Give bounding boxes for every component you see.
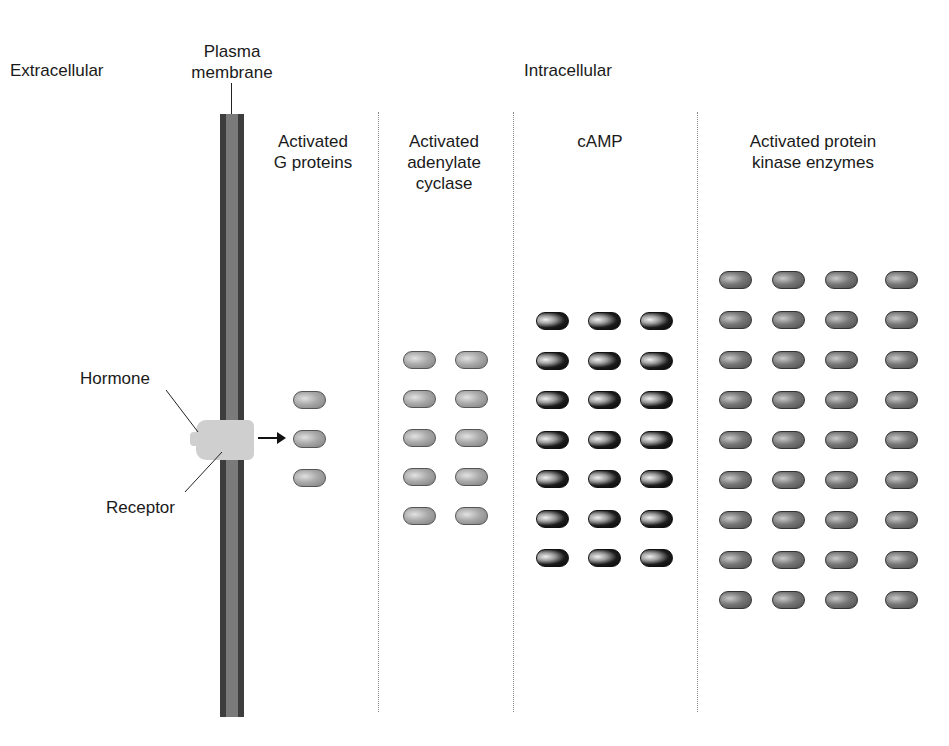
camp-molecule	[588, 391, 621, 409]
protein-kinase-molecule	[772, 551, 805, 569]
camp-molecule	[588, 312, 621, 330]
camp-molecule	[536, 510, 569, 528]
protein-kinase-molecule	[825, 471, 858, 489]
camp-molecule	[640, 312, 673, 330]
protein-kinase-molecule	[772, 391, 805, 409]
adenylate-cyclase-molecule	[403, 507, 436, 525]
protein-kinase-molecule	[719, 311, 752, 329]
protein-kinase-molecule	[772, 591, 805, 609]
adenylate-cyclase-molecule	[455, 390, 488, 408]
camp-molecule	[588, 352, 621, 370]
protein-kinase-molecule	[719, 591, 752, 609]
protein-kinase-molecule	[825, 271, 858, 289]
adenylate-cyclase-molecule	[403, 390, 436, 408]
protein-kinase-molecule	[719, 431, 752, 449]
camp-molecule	[640, 470, 673, 488]
camp-molecule	[588, 510, 621, 528]
protein-kinase-molecule	[825, 511, 858, 529]
camp-molecule	[536, 431, 569, 449]
protein-kinase-molecule	[825, 431, 858, 449]
protein-kinase-molecule	[772, 471, 805, 489]
camp-molecule	[588, 549, 621, 567]
adenylate-cyclase-molecule	[403, 351, 436, 369]
hormone-pointer	[0, 0, 949, 746]
g-proteins-molecule	[293, 391, 326, 409]
camp-molecule	[640, 391, 673, 409]
camp-molecule	[640, 510, 673, 528]
protein-kinase-molecule	[772, 351, 805, 369]
camp-molecule	[536, 470, 569, 488]
camp-molecule	[536, 391, 569, 409]
g-proteins-molecule	[293, 469, 326, 487]
protein-kinase-molecule	[772, 271, 805, 289]
protein-kinase-molecule	[885, 511, 918, 529]
adenylate-cyclase-molecule	[455, 507, 488, 525]
protein-kinase-molecule	[885, 391, 918, 409]
camp-molecule	[536, 549, 569, 567]
camp-molecule	[588, 470, 621, 488]
g-proteins-molecule	[293, 430, 326, 448]
protein-kinase-molecule	[719, 271, 752, 289]
protein-kinase-molecule	[885, 551, 918, 569]
camp-molecule	[536, 352, 569, 370]
protein-kinase-molecule	[885, 271, 918, 289]
protein-kinase-molecule	[719, 471, 752, 489]
protein-kinase-molecule	[825, 351, 858, 369]
protein-kinase-molecule	[885, 591, 918, 609]
protein-kinase-molecule	[885, 311, 918, 329]
protein-kinase-molecule	[825, 591, 858, 609]
protein-kinase-molecule	[825, 391, 858, 409]
protein-kinase-molecule	[772, 311, 805, 329]
adenylate-cyclase-molecule	[403, 468, 436, 486]
protein-kinase-molecule	[885, 431, 918, 449]
adenylate-cyclase-molecule	[455, 468, 488, 486]
adenylate-cyclase-molecule	[403, 429, 436, 447]
protein-kinase-molecule	[772, 511, 805, 529]
protein-kinase-molecule	[825, 551, 858, 569]
protein-kinase-molecule	[719, 551, 752, 569]
camp-molecule	[536, 312, 569, 330]
protein-kinase-molecule	[719, 511, 752, 529]
adenylate-cyclase-molecule	[455, 351, 488, 369]
camp-molecule	[588, 431, 621, 449]
protein-kinase-molecule	[719, 351, 752, 369]
protein-kinase-molecule	[825, 311, 858, 329]
camp-molecule	[640, 431, 673, 449]
receptor-label: Receptor	[106, 497, 175, 518]
protein-kinase-molecule	[885, 471, 918, 489]
camp-molecule	[640, 549, 673, 567]
protein-kinase-molecule	[772, 431, 805, 449]
adenylate-cyclase-molecule	[455, 429, 488, 447]
protein-kinase-molecule	[719, 391, 752, 409]
camp-molecule	[640, 352, 673, 370]
protein-kinase-molecule	[885, 351, 918, 369]
